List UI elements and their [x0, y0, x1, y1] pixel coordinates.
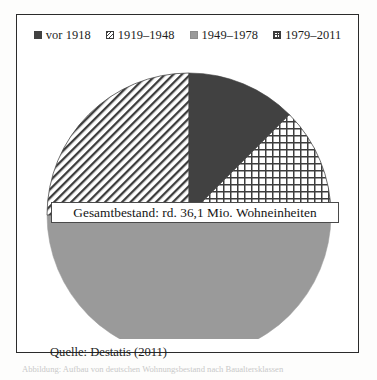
diagonal-hatch-square-icon — [106, 31, 114, 39]
total-stock-label: Gesamtbestand: rd. 36,1 Mio. Wohneinheit… — [51, 202, 339, 223]
legend-item-1919-1948: 1919–1948 — [106, 29, 175, 41]
figure-frame: vor 1918 1919–1948 1949–1978 1979–2011 — [16, 14, 359, 353]
pie-chart-svg — [34, 51, 343, 339]
solid-gray-square-icon — [190, 31, 198, 39]
legend-item-label: 1949–1978 — [202, 29, 259, 41]
legend-item-label: 1919–1948 — [118, 29, 175, 41]
legend-item-label: vor 1918 — [46, 29, 91, 41]
pie-slice-1949-1978 — [47, 215, 331, 339]
legend-item-label: 1979–2011 — [285, 29, 341, 41]
pie-chart — [34, 51, 343, 339]
grid-hatch-square-icon — [273, 31, 281, 39]
pie-slice-1919-1948 — [47, 73, 189, 215]
chart-legend: vor 1918 1919–1948 1949–1978 1979–2011 — [17, 29, 358, 41]
legend-item-1979-2011: 1979–2011 — [273, 29, 341, 41]
solid-dark-square-icon — [34, 31, 42, 39]
legend-item-1949-1978: 1949–1978 — [190, 29, 259, 41]
figure-caption: Abbildung: Aufbau von deutschen Wohnungs… — [22, 364, 362, 374]
source-note: Quelle: Destatis (2011) — [50, 345, 167, 360]
legend-item-vor-1918: vor 1918 — [34, 29, 91, 41]
